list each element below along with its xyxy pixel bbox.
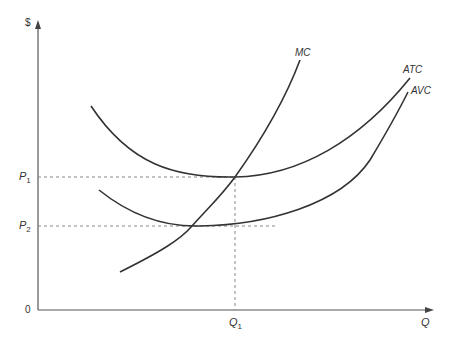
curves [91, 60, 410, 272]
atc-curve [91, 78, 410, 177]
origin-label: 0 [25, 305, 31, 315]
atc-label: ATC [403, 65, 422, 75]
p2-label: P2 [19, 220, 31, 234]
cost-curves-chart [0, 0, 450, 339]
y-axis-arrow-icon [35, 20, 41, 29]
p1-label: P1 [19, 171, 31, 185]
x-axis-arrow-icon [425, 307, 434, 313]
avc-label: AVC [411, 86, 431, 96]
p1-label-sub: 1 [26, 176, 30, 185]
q1-label-sub: 1 [238, 322, 242, 331]
reference-lines [38, 177, 276, 310]
y-axis-label: $ [25, 18, 31, 28]
q1-label-main: Q [229, 316, 238, 328]
p2-label-sub: 2 [26, 225, 30, 234]
mc-label: MC [295, 48, 311, 58]
x-axis-label: Q [421, 317, 430, 328]
q1-label: Q1 [229, 317, 242, 331]
mc-curve [120, 60, 300, 272]
